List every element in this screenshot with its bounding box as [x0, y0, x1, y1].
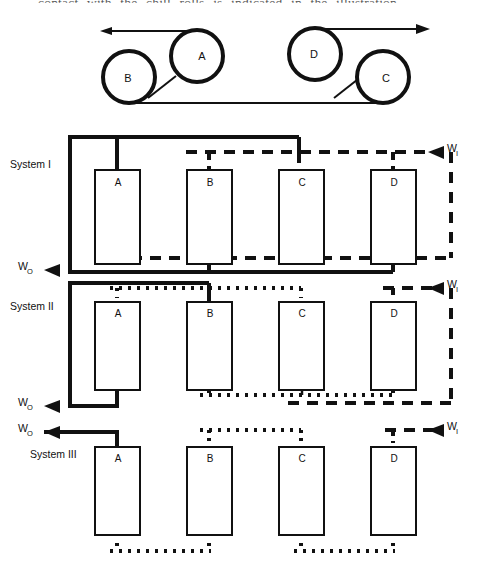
web-outlet-arrow-icon [416, 24, 430, 34]
system-2-unit-b-label: B [207, 308, 214, 319]
system-3-unit-a-label: A [115, 453, 122, 464]
system-1-unit-a-label: A [115, 177, 122, 188]
roll-a-label: A [198, 50, 206, 62]
system-2-unit-d-label: D [390, 308, 397, 319]
system-1-outlet-arrow-icon [44, 264, 60, 277]
system-2-group: System II W O [10, 278, 458, 413]
system-2-unit-c-label: C [298, 308, 305, 319]
web-inlet-arrow-icon [100, 27, 112, 35]
system-1-inlet-arrow-icon [428, 146, 444, 159]
system-1-unit-d-label: D [390, 177, 397, 188]
system-1-inlet-subscript: I [456, 149, 458, 158]
system-3-unit-b-label: B [207, 453, 214, 464]
diagram-canvas: A B D C System I [0, 0, 482, 575]
system-3-outlet-arrow-icon [44, 426, 60, 439]
system-3-outlet-subscript: O [27, 429, 33, 438]
system-3-inlet-arrow-icon [428, 424, 444, 437]
system-3-unit-c-label: C [298, 453, 305, 464]
roll-a-circle [171, 30, 223, 82]
system-3-inlet-subscript: I [456, 427, 458, 436]
roll-b-label: B [124, 72, 131, 84]
system-2-outlet-arrow-icon [44, 400, 60, 413]
system-2-inlet-subscript: I [456, 285, 458, 294]
roll-threading-group: A B D C [100, 24, 430, 103]
system-2-outlet-subscript: O [27, 403, 33, 412]
system-1-unit-b-label: B [207, 177, 214, 188]
system-3-label: System III [30, 448, 77, 460]
process-flow-figure: contact with the chill rolls is indicate… [0, 0, 482, 575]
roll-c-label: C [382, 72, 390, 84]
system-1-outlet-subscript: O [27, 267, 33, 276]
system-3-group: System III W O W I [18, 420, 458, 551]
system-1-label: System I [10, 158, 51, 170]
system-3-unit-d-label: D [390, 453, 397, 464]
system-1-group: System I W O [10, 137, 458, 277]
roll-d-label: D [310, 48, 318, 60]
system-2-inlet-arrow-icon [428, 282, 444, 295]
system-1-unit-c-label: C [298, 177, 305, 188]
system-2-label: System II [10, 300, 54, 312]
system-2-unit-a-label: A [115, 308, 122, 319]
